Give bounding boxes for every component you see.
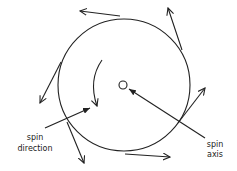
tangent-arrow-bottom	[125, 154, 170, 157]
spin-diagram: spin direction spin axis	[0, 0, 237, 171]
spin-axis-marker	[119, 81, 127, 89]
rotating-body-circle	[58, 19, 190, 151]
tangent-arrow-bottom-left	[67, 122, 84, 163]
spin-direction-leader	[45, 108, 90, 128]
spin-direction-label-line2: direction	[17, 144, 52, 153]
spin-direction-curved-arrow	[93, 60, 102, 106]
tangent-arrow-top	[80, 11, 120, 16]
tangent-arrow-right	[178, 88, 205, 123]
spin-axis-label-line2: axis	[207, 150, 223, 159]
spin-axis-leader	[129, 89, 205, 138]
spin-axis-label-line1: spin	[207, 140, 224, 149]
spin-direction-label-line1: spin	[27, 133, 44, 142]
